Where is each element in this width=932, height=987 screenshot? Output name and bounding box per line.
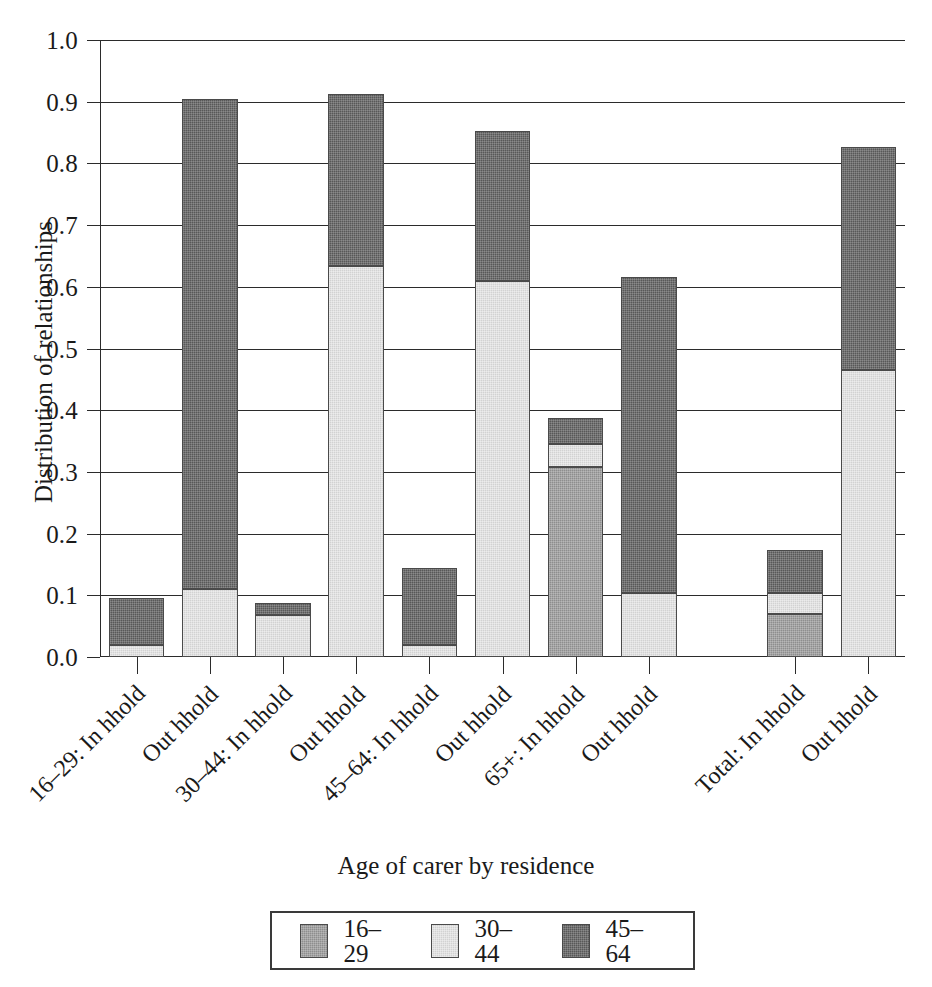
x-tick-mark [210, 657, 211, 674]
bar-segment-30-44[interactable] [255, 615, 311, 657]
stacked-bar[interactable] [621, 277, 677, 657]
x-tick-label: Out hhold [796, 681, 881, 766]
y-tick-label: 1.0 [46, 28, 78, 53]
legend-label: 30–44 [474, 916, 526, 966]
bar-segment-45-64[interactable] [841, 147, 897, 370]
stacked-bar[interactable] [767, 550, 823, 657]
x-tick-mark [283, 657, 284, 674]
bar-segment-45-64[interactable] [621, 277, 677, 594]
bar-segment-30-44[interactable] [841, 370, 897, 657]
x-tick-label: Total: In hhold [691, 681, 809, 799]
x-tick-mark [868, 657, 869, 674]
stacked-bar[interactable] [328, 94, 384, 657]
bar-segment-45-64[interactable] [109, 598, 165, 644]
legend-item[interactable]: 30–44 [431, 916, 526, 966]
bar-segment-16-29[interactable] [767, 614, 823, 657]
bar-segment-45-64[interactable] [548, 418, 604, 444]
gridline [100, 40, 905, 41]
clipped-header-remnant [0, 0, 932, 12]
legend-item[interactable]: 16–29 [300, 916, 395, 966]
x-tick-mark [356, 657, 357, 674]
bar-segment-45-64[interactable] [328, 94, 384, 266]
legend-label: 16–29 [343, 916, 395, 966]
bar-segment-30-44[interactable] [328, 266, 384, 657]
bar-segment-30-44[interactable] [402, 645, 458, 657]
stacked-bar[interactable] [841, 147, 897, 657]
legend-swatch-30-44 [431, 924, 459, 958]
x-tick-mark [503, 657, 504, 674]
x-tick-mark [137, 657, 138, 674]
stacked-bar[interactable] [402, 568, 458, 657]
stacked-bar[interactable] [182, 99, 238, 657]
legend-item[interactable]: 45–64 [562, 916, 657, 966]
x-tick-mark [429, 657, 430, 674]
y-axis-title: Distribution of relationships [30, 82, 58, 642]
bar-segment-30-44[interactable] [548, 444, 604, 467]
bar-segment-30-44[interactable] [109, 645, 165, 657]
bar-segment-30-44[interactable] [621, 593, 677, 657]
bar-segment-30-44[interactable] [182, 589, 238, 657]
bar-segment-45-64[interactable] [255, 603, 311, 615]
bar-segment-30-44[interactable] [767, 593, 823, 614]
bar-segment-45-64[interactable] [767, 550, 823, 593]
legend-swatch-45-64 [562, 924, 590, 958]
bar-segment-45-64[interactable] [182, 99, 238, 589]
stacked-bar[interactable] [548, 418, 604, 657]
y-tick-label: 0.0 [46, 645, 78, 670]
bar-segment-30-44[interactable] [475, 281, 531, 657]
bar-segment-45-64[interactable] [402, 568, 458, 645]
plot-area [100, 40, 905, 657]
legend-label: 45–64 [605, 916, 657, 966]
legend-swatch-16-29 [300, 924, 328, 958]
x-axis-title: Age of carer by residence [0, 852, 932, 880]
legend: 16–29 30–44 45–64 [270, 911, 695, 970]
stacked-bar[interactable] [475, 131, 531, 657]
x-tick-mark [576, 657, 577, 674]
stacked-bar[interactable] [109, 598, 165, 657]
bar-segment-45-64[interactable] [475, 131, 531, 281]
x-tick-mark [795, 657, 796, 674]
x-tick-mark [649, 657, 650, 674]
x-tick-label: Out hhold [576, 681, 661, 766]
stacked-bar[interactable] [255, 603, 311, 657]
y-axis-line [100, 40, 101, 657]
bar-segment-16-29[interactable] [548, 467, 604, 657]
